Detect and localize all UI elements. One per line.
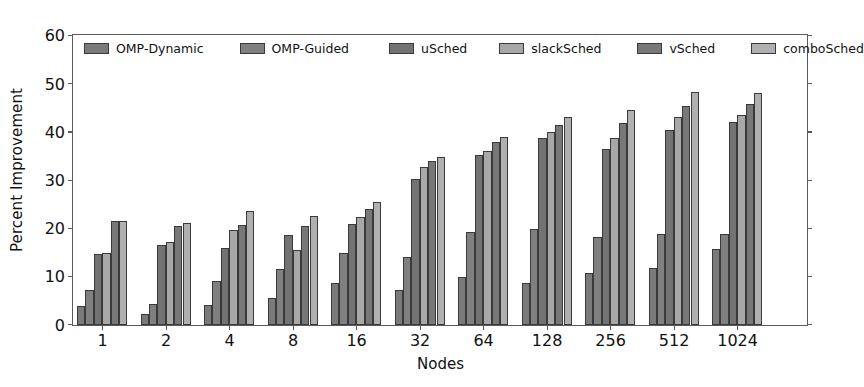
bar [166,242,174,325]
legend-label: comboSched [783,41,864,56]
bar [229,230,237,325]
bar [183,223,191,325]
bar [373,202,381,325]
bar [174,226,182,325]
bar [111,221,119,325]
bar [547,132,555,325]
legend-label: OMP-Dynamic [116,41,204,56]
bar [500,137,508,325]
bar [754,93,762,325]
y-tick-label: 50 [12,74,72,93]
bar [238,225,246,325]
bar [420,167,428,325]
bar [522,283,530,325]
y-tick-label: 0 [12,315,72,334]
y-tick-label: 60 [12,26,72,45]
bar [483,151,491,325]
x-tick-mark [229,325,230,330]
legend-swatch-icon [84,43,109,54]
x-tick-label: 128 [532,331,563,350]
bar [649,268,657,325]
x-tick-label: 8 [288,331,298,350]
x-axis-title: Nodes [72,355,809,373]
bar [737,115,745,325]
legend-label: vSched [669,41,715,56]
bar [365,209,373,325]
y-tick-label: 10 [12,267,72,286]
bar [119,221,127,325]
bar [339,253,347,325]
bar [348,224,356,325]
bar [149,304,157,325]
bar [555,125,563,325]
bar [428,161,436,325]
x-tick-mark [166,325,167,330]
legend-entry: OMP-Guided [240,41,350,56]
y-tick-mark-right [807,228,812,229]
bar [627,110,635,325]
legend-swatch-icon [240,43,265,54]
bar [85,290,93,325]
x-tick-label: 256 [595,331,626,350]
bar [331,283,339,325]
bar [284,235,292,325]
plot-area [72,34,808,326]
x-tick-mark [737,325,738,330]
x-tick-mark [483,325,484,330]
bar [246,211,254,325]
bar [212,281,220,325]
bar [403,257,411,325]
bar [94,254,102,325]
x-tick-mark [420,325,421,330]
bar [665,130,673,325]
bar [657,234,665,325]
x-tick-mark [674,325,675,330]
legend-label: uSched [421,41,467,56]
x-tick-label: 16 [346,331,366,350]
x-tick-label: 2 [161,331,171,350]
bar [268,298,276,325]
chart-legend: OMP-DynamicOMP-GuideduSchedslackSchedvSc… [84,38,798,58]
x-tick-mark [356,325,357,330]
bar [141,314,149,325]
bars-layer [73,35,807,325]
legend-swatch-icon [389,43,414,54]
bar [492,142,500,325]
bar [411,179,419,325]
bar [475,155,483,325]
x-tick-label: 64 [473,331,493,350]
bar [729,122,737,325]
x-tick-mark [102,325,103,330]
bar [691,92,699,325]
bar [157,245,165,325]
bar [276,269,284,325]
y-tick-label: 40 [12,122,72,141]
bar [458,277,466,325]
legend-entry: comboSched [751,41,864,56]
bar [301,226,309,325]
bar [602,149,610,325]
bar [720,234,728,325]
bar [593,237,601,325]
y-tick-mark-right [807,83,812,84]
x-tick-label: 1 [98,331,108,350]
legend-entry: OMP-Dynamic [84,41,204,56]
legend-entry: slackSched [499,41,601,56]
x-tick-mark [293,325,294,330]
y-tick-mark-right [807,35,812,36]
bar [610,138,618,325]
x-tick-mark [547,325,548,330]
bar [674,117,682,325]
legend-label: slackSched [531,41,601,56]
bar [712,249,720,325]
bar [395,290,403,325]
bar [310,216,318,325]
y-tick-mark-right [807,324,812,325]
y-tick-label: 30 [12,171,72,190]
bar [293,250,301,325]
x-tick-label: 1024 [717,331,758,350]
x-tick-label: 32 [410,331,430,350]
bar [682,106,690,325]
legend-entry: vSched [637,41,715,56]
bar [221,248,229,325]
